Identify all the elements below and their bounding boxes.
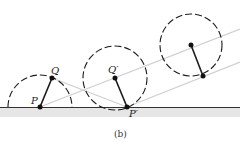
diagram-svg: Q P Q′ P′ (b) — [0, 0, 240, 142]
rolling-circle-diagram: Q P Q′ P′ (b) — [0, 0, 240, 142]
label-pprime: P′ — [128, 108, 139, 119]
point-qprime — [113, 76, 118, 81]
guide-line-pprime-upper — [127, 62, 240, 107]
caption: (b) — [114, 129, 127, 139]
point-p — [38, 105, 43, 110]
label-qprime: Q′ — [108, 64, 119, 75]
rod-third — [191, 45, 203, 76]
point-rim-3 — [201, 74, 206, 79]
label-q: Q — [51, 65, 59, 76]
point-q — [50, 76, 55, 81]
label-p: P — [30, 95, 38, 106]
point-center-3 — [189, 43, 194, 48]
guide-line-p-through-qprime — [40, 29, 240, 107]
guide-line-q-to-pprime — [52, 78, 127, 107]
dashed-circle-1 — [8, 75, 72, 107]
